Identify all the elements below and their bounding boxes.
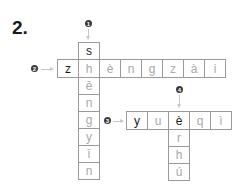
- grid-cell[interactable]: q: [189, 111, 211, 130]
- grid-cell[interactable]: s: [78, 42, 100, 60]
- grid-cell[interactable]: ī: [78, 145, 100, 163]
- grid-cell[interactable]: ì: [210, 111, 232, 130]
- grid-cell[interactable]: n: [78, 94, 100, 112]
- grid-cell[interactable]: è: [168, 111, 190, 130]
- grid-cell[interactable]: z: [162, 59, 184, 78]
- grid-cell[interactable]: i: [204, 59, 226, 78]
- clue-marker-3: 3: [104, 117, 111, 124]
- grid-cell[interactable]: u: [147, 111, 169, 130]
- arrow-down-icon: [88, 29, 89, 39]
- clue-marker-1: 1: [85, 20, 92, 27]
- grid-cell[interactable]: y: [78, 128, 100, 146]
- grid-cell[interactable]: n: [78, 162, 100, 180]
- grid-cell[interactable]: ú: [168, 163, 190, 181]
- grid-cell[interactable]: à: [183, 59, 205, 78]
- grid-cell[interactable]: h: [168, 146, 190, 164]
- clue-marker-4: 4: [176, 86, 183, 93]
- grid-cell[interactable]: z: [57, 59, 79, 78]
- grid-cell[interactable]: è: [99, 59, 121, 78]
- grid-cell[interactable]: g: [141, 59, 163, 78]
- grid-cell[interactable]: n: [120, 59, 142, 78]
- grid-cell[interactable]: ē: [78, 77, 100, 95]
- exercise-number: 2.: [12, 17, 28, 39]
- arrow-right-icon: [41, 69, 53, 70]
- grid-cell[interactable]: g: [78, 111, 100, 129]
- grid-cell[interactable]: h: [78, 59, 100, 78]
- arrow-right-icon: [113, 121, 123, 122]
- grid-cell[interactable]: y: [126, 111, 148, 130]
- grid-cell[interactable]: r: [168, 129, 190, 147]
- clue-marker-2: 2: [31, 65, 38, 72]
- arrow-down-icon: [179, 95, 180, 107]
